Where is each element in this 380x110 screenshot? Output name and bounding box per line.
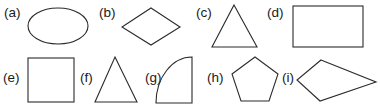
shape-triangle-f xyxy=(95,57,137,102)
shapes-figure: (a)(b)(c)(d)(e)(f)(g)(h)(i) xyxy=(0,0,380,110)
shape-label-c: (c) xyxy=(196,5,212,20)
shape-pentagon-h xyxy=(232,57,278,101)
shape-group-e: (e) xyxy=(3,58,74,102)
shape-group-a: (a) xyxy=(4,5,88,44)
shape-group-i: (i) xyxy=(282,60,376,101)
shape-group-d: (d) xyxy=(267,5,363,47)
shapes-canvas: (a)(b)(c)(d)(e)(f)(g)(h)(i) xyxy=(0,0,380,110)
shape-square-e xyxy=(28,58,74,102)
shape-rectangle-d xyxy=(293,6,363,47)
shape-rhombus-b xyxy=(122,8,180,45)
shape-group-f: (f) xyxy=(80,57,137,102)
shape-kite-quadrilateral-i xyxy=(297,60,376,101)
shape-group-b: (b) xyxy=(99,5,180,45)
shape-label-h: (h) xyxy=(207,70,224,85)
shape-group-g: (g) xyxy=(145,57,192,103)
shape-label-b: (b) xyxy=(99,5,116,20)
shape-label-i: (i) xyxy=(282,70,294,85)
shape-ellipse-a xyxy=(28,8,88,44)
shape-triangle-c xyxy=(212,5,257,47)
shape-label-a: (a) xyxy=(4,5,21,20)
shape-label-e: (e) xyxy=(3,70,20,85)
shape-group-h: (h) xyxy=(207,57,278,101)
shape-label-f: (f) xyxy=(80,70,93,85)
shape-group-c: (c) xyxy=(196,5,257,47)
shape-label-d: (d) xyxy=(267,5,284,20)
